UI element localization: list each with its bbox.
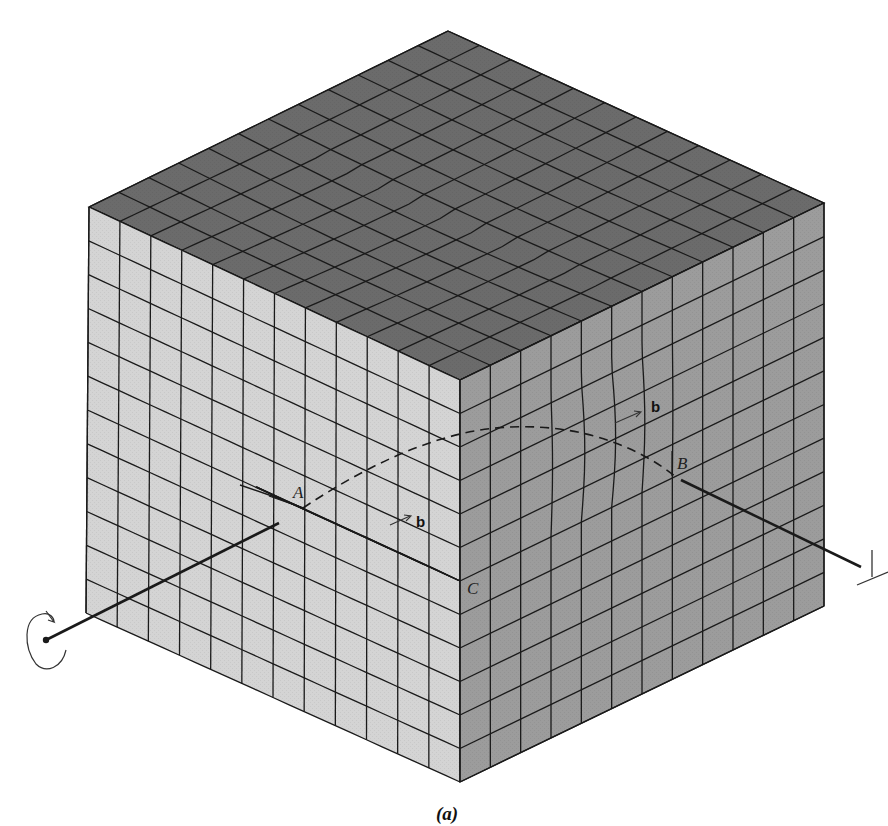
circular-arrow-icon <box>27 611 66 669</box>
point-b-label: B <box>677 454 688 473</box>
point-a-label: A <box>292 483 304 502</box>
figure-caption: (a) <box>436 803 458 825</box>
burgers-vector-label-step: b <box>416 513 425 530</box>
perpendicular-symbol-icon <box>857 550 888 585</box>
dislocation-diagram: b b A B C (a) <box>0 0 888 826</box>
burgers-vector-label-top: b <box>651 398 660 415</box>
point-c-label: C <box>467 579 479 598</box>
